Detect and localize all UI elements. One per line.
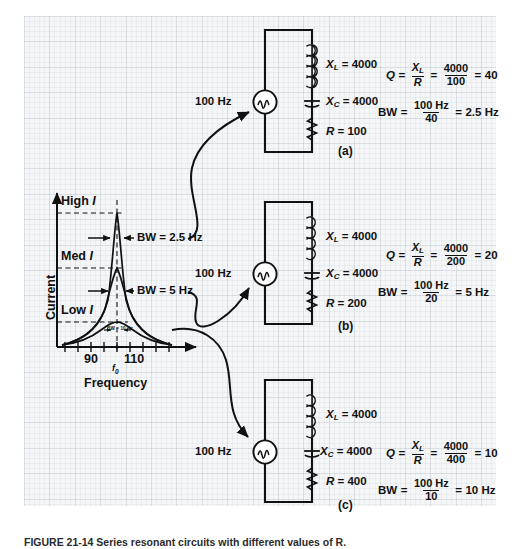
- inductor-value-a: 4000: [352, 58, 378, 70]
- graph-ytick-high: High I: [61, 195, 96, 208]
- resistor-value-a: 100: [347, 125, 366, 137]
- circuit-b-linework: [265, 202, 319, 324]
- resistor-label-c: R = 400: [326, 475, 367, 487]
- eq-q-num2-a: 4000: [442, 63, 470, 75]
- resistor-value-b: 200: [347, 297, 366, 309]
- inductor-value-c: 4000: [352, 408, 378, 420]
- inductor-label-b: XL = 4000: [326, 230, 377, 244]
- graph-xtick-90: 90: [84, 353, 98, 366]
- circuit-c-linework: [265, 380, 319, 502]
- panel-id-c: (c): [338, 499, 353, 512]
- circuit-a-linework: [265, 30, 319, 152]
- eq-q-den2-a: 100: [445, 75, 467, 88]
- graph-x-axis-label: Frequency: [84, 377, 147, 390]
- equation-q-b: Q = XLR = 4000200 = 20: [386, 242, 498, 268]
- capacitor-label-c: XC = 4000: [320, 445, 372, 459]
- eq-bw-lhs-a: BW: [378, 106, 397, 118]
- eq-q-result-b: 20: [485, 249, 498, 261]
- inductor-label-a: XL = 4000: [326, 58, 377, 72]
- equation-bw-a: BW = 100 Hz40 = 2.5 Hz: [378, 100, 499, 124]
- inductor-label-c: XL = 4000: [326, 408, 377, 422]
- bw-annotation-med: BW = 5 Hz: [137, 284, 193, 296]
- eq-q-den2-c: 400: [445, 453, 467, 466]
- bw-annotation-low: BW = 10 Hz: [107, 327, 133, 332]
- capacitor-label-b: XC = 4000: [326, 267, 378, 281]
- resistor-label-a: R = 100: [326, 125, 367, 137]
- source-label-b: 100 Hz: [195, 267, 231, 279]
- bw-annotation-high: BW = 2.5 Hz: [137, 231, 203, 243]
- ac-source-icon-c: [253, 440, 276, 463]
- eq-q-den1-a: R: [412, 76, 424, 89]
- eq-q-result-a: 40: [485, 69, 498, 81]
- panel-id-b: (b): [338, 320, 353, 333]
- eq-bw-den-a: 40: [423, 112, 439, 125]
- capacitor-value-b: 4000: [353, 267, 379, 279]
- eq-bw-num-b: 100 Hz: [412, 280, 451, 292]
- eq-q-num2-c: 4000: [442, 441, 470, 453]
- graph-ytick-low: Low I: [61, 304, 93, 317]
- figure-caption: FIGURE 21-14 Series resonant circuits wi…: [24, 536, 496, 549]
- eq-q-den2-b: 200: [445, 255, 467, 268]
- eq-q-lhs-c: Q: [386, 447, 395, 459]
- eq-q-num1-a: XL: [410, 62, 426, 76]
- eq-q-lhs-b: Q: [386, 249, 395, 261]
- eq-bw-den-c: 10: [423, 490, 439, 503]
- eq-q-den1-b: R: [412, 256, 424, 269]
- resistor-value-c: 400: [347, 475, 366, 487]
- eq-bw-result-c: 10 Hz: [465, 484, 495, 496]
- eq-bw-lhs-b: BW: [378, 286, 397, 298]
- graph-y-axis-label: Current: [45, 275, 58, 320]
- eq-q-num1-b: XL: [410, 242, 426, 256]
- equation-q-c: Q = XLR = 4000400 = 10: [386, 440, 498, 466]
- graph-xtick-110: 110: [124, 353, 144, 366]
- graph-ytick-med: Med I: [61, 250, 93, 263]
- equation-bw-b: BW = 100 Hz20 = 5 Hz: [378, 280, 489, 304]
- source-label-c: 100 Hz: [195, 445, 231, 457]
- inductor-value-b: 4000: [352, 230, 378, 242]
- capacitor-value-a: 4000: [353, 95, 379, 107]
- eq-q-den1-c: R: [412, 454, 424, 467]
- eq-q-lhs-a: Q: [386, 69, 395, 81]
- eq-bw-result-b: 5 Hz: [465, 286, 489, 298]
- eq-bw-den-b: 20: [423, 292, 439, 305]
- equation-q-a: Q = XLR = 4000100 = 40: [386, 62, 498, 88]
- figure-root: 100 Hz XL = 4000 XC = 4000 R = 100 (a) Q…: [0, 0, 520, 549]
- ac-source-icon-b: [253, 262, 276, 285]
- eq-bw-num-a: 100 Hz: [412, 100, 451, 112]
- eq-q-num1-c: XL: [410, 440, 426, 454]
- panel-id-a: (a): [338, 145, 353, 158]
- eq-q-result-c: 10: [485, 447, 498, 459]
- source-label-a: 100 Hz: [195, 95, 231, 107]
- equation-bw-c: BW = 100 Hz10 = 10 Hz: [378, 478, 496, 502]
- eq-bw-result-a: 2.5 Hz: [465, 106, 498, 118]
- resistor-label-b: R = 200: [326, 297, 367, 309]
- eq-bw-num-c: 100 Hz: [412, 478, 451, 490]
- ac-source-icon-a: [253, 90, 276, 113]
- capacitor-label-a: XC = 4000: [326, 95, 378, 109]
- eq-bw-lhs-c: BW: [378, 484, 397, 496]
- eq-q-num2-b: 4000: [442, 243, 470, 255]
- graph-center-frequency-label: f0: [112, 364, 119, 376]
- capacitor-value-c: 4000: [347, 445, 373, 457]
